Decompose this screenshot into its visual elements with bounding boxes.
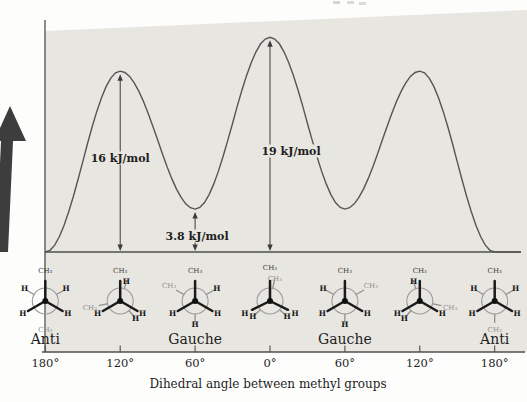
front-substituent-label: CH₃ [188,267,202,275]
front-substituent-label: H [292,309,299,318]
front-substituent-label: H [469,309,476,318]
front-substituent-label: H [514,309,521,318]
front-carbon-dot [42,298,48,304]
energy-axis-arrow [0,106,26,252]
back-substituent-label: H [401,314,408,323]
front-substituent-label: CH₃ [263,264,277,272]
front-substituent-label: H [319,309,326,318]
x-tick-label: 0° [263,356,276,370]
front-substituent-label: H [439,309,446,318]
back-substituent-label: H [470,284,477,293]
annotation-label: 16 kJ/mol [91,152,150,165]
back-substituent-label: H [213,284,220,293]
front-carbon-dot [117,298,123,304]
front-carbon-dot [492,298,498,304]
front-substituent-label: H [19,309,26,318]
back-substituent-label: H [512,284,519,293]
front-substituent-label: CH₃ [338,267,352,275]
back-substituent-label: H [63,284,70,293]
back-substituent-label: CH₃ [162,282,176,290]
front-substituent-label: CH₃ [38,267,52,275]
back-substituent-label: H [249,312,256,321]
front-substituent-label: H [241,309,248,318]
back-substituent-label: H [192,320,199,329]
front-substituent-label: H [364,309,371,318]
front-substituent-label: CH₃ [413,267,427,275]
x-tick-label: 60° [335,356,355,370]
butane-torsional-energy-figure: 16 kJ/mol19 kJ/mol3.8 kJ/mol180°120°60°0… [0,0,527,402]
x-axis-caption: Dihedral angle between methyl groups [149,377,386,391]
front-carbon-dot [417,298,423,304]
back-substituent-label: H [123,277,130,286]
annotation-label: 3.8 kJ/mol [166,230,229,243]
front-substituent-label: CH₃ [113,267,127,275]
front-carbon-dot [267,298,273,304]
front-substituent-label: H [94,309,101,318]
front-substituent-label: CH₃ [488,267,502,275]
front-substituent-label: H [64,309,71,318]
back-substituent-label: CH₃ [488,326,502,334]
conformation-label: Gauche [168,331,222,347]
x-tick-label: 180° [31,356,59,370]
back-substituent-label: H [341,320,348,329]
front-substituent-label: H [169,309,176,318]
back-substituent-label: H [284,312,291,321]
back-substituent-label: H [410,277,417,286]
conformation-label: Gauche [318,331,372,347]
front-carbon-dot [192,298,198,304]
x-tick-label: 60° [185,356,205,370]
front-substituent-label: H [394,309,401,318]
back-substituent-label: CH₃ [38,326,52,334]
x-tick-label: 180° [481,356,509,370]
back-substituent-label: H [21,284,28,293]
front-substituent-label: H [214,309,221,318]
x-tick-label: 120° [406,356,434,370]
front-carbon-dot [342,298,348,304]
back-substituent-label: CH₃ [364,282,378,290]
back-substituent-label: H [320,284,327,293]
annotation-label: 19 kJ/mol [261,145,320,158]
front-substituent-label: H [139,309,146,318]
back-substituent-label: H [132,314,139,323]
x-tick-label: 120° [106,356,134,370]
